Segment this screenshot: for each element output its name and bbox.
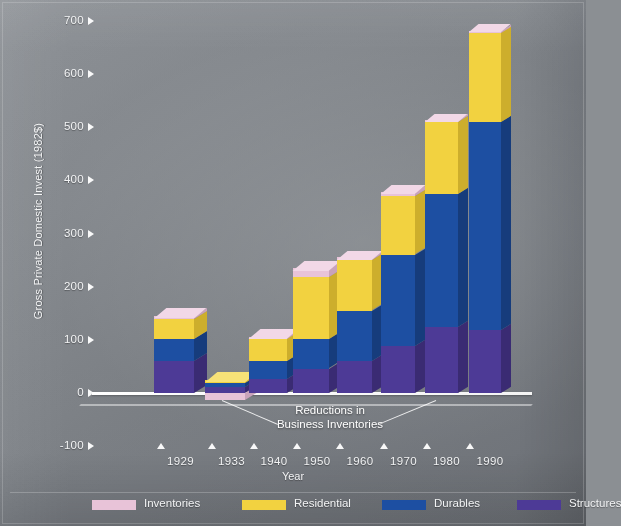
x-tick-arrow-icon [380,443,388,449]
bar-segment-structures[interactable] [425,327,458,393]
segment-face [425,122,458,194]
segment-face [154,339,194,361]
bar-segment-residential[interactable] [425,122,458,194]
segment-side [458,320,468,393]
x-tick-label: 1990 [460,455,520,467]
segment-face [249,338,287,361]
x-axis-title: Year [282,470,304,482]
x-tick-arrow-icon [336,443,344,449]
legend-label: Durables [434,497,480,509]
bar-segment-residential[interactable] [337,260,372,310]
legend-divider [10,492,576,493]
segment-face [293,339,329,368]
legend-swatch [242,500,286,510]
legend-swatch [517,500,561,510]
bar-segment-durables[interactable] [293,339,329,368]
bar-segment-inventories[interactable] [205,393,245,400]
x-tick-arrow-icon [293,443,301,449]
x-tick-arrow-icon [250,443,258,449]
bar-segment-residential[interactable] [249,338,287,361]
x-tick-arrow-icon [157,443,165,449]
bar-segment-inventories[interactable] [469,31,501,33]
bar-segment-inventories[interactable] [337,257,372,260]
segment-face [154,319,194,339]
bar-segment-residential[interactable] [205,380,245,383]
segment-face [469,122,501,330]
bar-segment-durables[interactable] [205,383,245,387]
bar-segment-durables[interactable] [337,311,372,361]
segment-face [205,383,245,387]
annotation-label: Reductions in Business Inventories [277,403,383,431]
bar-segment-structures[interactable] [293,369,329,393]
segment-face [293,369,329,393]
x-tick-arrow-icon [423,443,431,449]
segment-face [205,393,245,400]
segment-face [425,327,458,393]
segment-side [501,324,511,393]
segment-side [501,116,511,331]
chart-legend: InventoriesResidentialDurablesStructures [92,498,562,514]
bar-segment-residential[interactable] [469,32,501,122]
segment-face [154,361,194,393]
segment-face [293,277,329,339]
bar-segment-structures[interactable] [337,361,372,393]
segment-face [249,379,287,393]
bar-segment-structures[interactable] [469,330,501,393]
segment-face [381,255,415,346]
legend-swatch [92,500,136,510]
bar-segment-inventories[interactable] [249,337,287,339]
bar-segment-residential[interactable] [154,319,194,339]
annotation-line-1: Reductions in [277,403,383,417]
segment-face [337,260,372,310]
bar-segment-inventories[interactable] [425,120,458,122]
bar-segment-durables[interactable] [154,339,194,361]
bar-segment-inventories[interactable] [381,192,415,196]
segment-face [425,194,458,327]
bar-segment-structures[interactable] [249,379,287,393]
segment-face [337,311,372,361]
x-tick-arrow-icon [208,443,216,449]
segment-side [501,25,511,122]
segment-face [469,330,501,393]
segment-side [458,187,468,326]
bar-segment-durables[interactable] [381,255,415,346]
bar-segment-inventories[interactable] [293,268,329,277]
bar-segment-structures[interactable] [381,346,415,393]
bar-segment-durables[interactable] [249,361,287,379]
annotation-line-2: Business Inventories [277,417,383,431]
segment-face [381,346,415,393]
legend-label: Structures [569,497,621,509]
legend-label: Inventories [144,497,200,509]
bar-segment-durables[interactable] [469,122,501,330]
bar-segment-inventories[interactable] [154,316,194,319]
bar-segment-durables[interactable] [425,194,458,327]
segment-face [337,361,372,393]
segment-face [469,32,501,122]
segment-face [381,196,415,254]
legend-swatch [382,500,426,510]
segment-side [458,116,468,194]
x-tick-arrow-icon [466,443,474,449]
bar-segment-structures[interactable] [154,361,194,393]
bar-segment-residential[interactable] [381,196,415,254]
segment-face [249,361,287,379]
legend-label: Residential [294,497,351,509]
bar-segment-residential[interactable] [293,277,329,339]
